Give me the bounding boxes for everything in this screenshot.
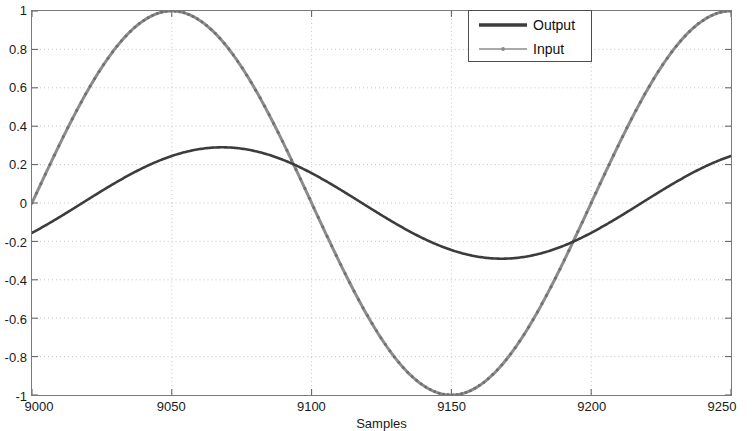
series-output bbox=[32, 147, 731, 258]
y-tick-label: 0.4 bbox=[0, 119, 27, 132]
plot-area bbox=[31, 10, 732, 396]
legend-swatch-output bbox=[477, 17, 529, 33]
y-tick-label: 0 bbox=[0, 197, 27, 210]
y-tick-label: -0.4 bbox=[0, 274, 27, 287]
y-tick-label: 0.6 bbox=[0, 81, 27, 94]
y-tick-label: -1 bbox=[0, 390, 27, 403]
y-axis-tick-labels: -1-0.8-0.6-0.4-0.200.20.40.60.81 bbox=[0, 10, 27, 396]
legend-entry-input: Input bbox=[469, 37, 591, 61]
legend-label-input: Input bbox=[533, 42, 564, 56]
y-tick-label: -0.2 bbox=[0, 235, 27, 248]
x-tick-label: 9150 bbox=[437, 400, 466, 413]
x-tick-label: 9050 bbox=[157, 400, 186, 413]
x-tick-label: 9000 bbox=[25, 400, 54, 413]
y-tick-label: 0.2 bbox=[0, 158, 27, 171]
plot-svg bbox=[32, 11, 731, 395]
y-tick-label: 1 bbox=[0, 4, 27, 17]
y-tick-label: 0.8 bbox=[0, 42, 27, 55]
x-tick-label: 9200 bbox=[577, 400, 606, 413]
y-tick-label: -0.8 bbox=[0, 351, 27, 364]
x-tick-label: 9250 bbox=[708, 400, 737, 413]
y-tick-label: -0.6 bbox=[0, 312, 27, 325]
series-input bbox=[32, 11, 731, 395]
x-tick-label: 9100 bbox=[297, 400, 326, 413]
legend-swatch-input bbox=[477, 41, 529, 57]
legend-entry-output: Output bbox=[469, 13, 591, 37]
legend-label-output: Output bbox=[533, 18, 575, 32]
x-axis-title: Samples bbox=[31, 417, 732, 430]
legend: Output Input bbox=[468, 10, 592, 62]
